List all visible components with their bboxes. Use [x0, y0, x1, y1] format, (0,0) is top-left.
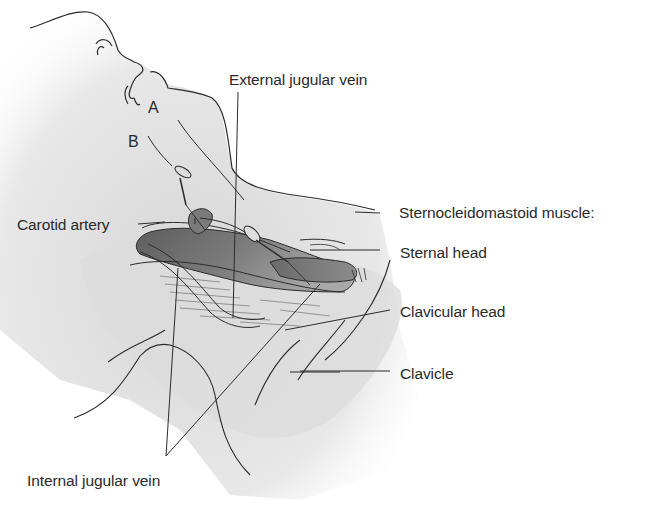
label-external-jugular-vein: External jugular vein: [229, 72, 367, 88]
label-carotid-artery: Carotid artery: [17, 217, 110, 233]
label-clavicular-head: Clavicular head: [400, 304, 505, 320]
label-sternocleidomastoid-muscle: Sternocleidomastoid muscle:: [399, 205, 594, 221]
label-sternal-head: Sternal head: [400, 245, 487, 261]
label-approach-a: A: [148, 100, 159, 116]
label-clavicle: Clavicle: [400, 366, 453, 382]
label-approach-b: B: [128, 134, 139, 150]
label-internal-jugular-vein: Internal jugular vein: [27, 473, 160, 489]
